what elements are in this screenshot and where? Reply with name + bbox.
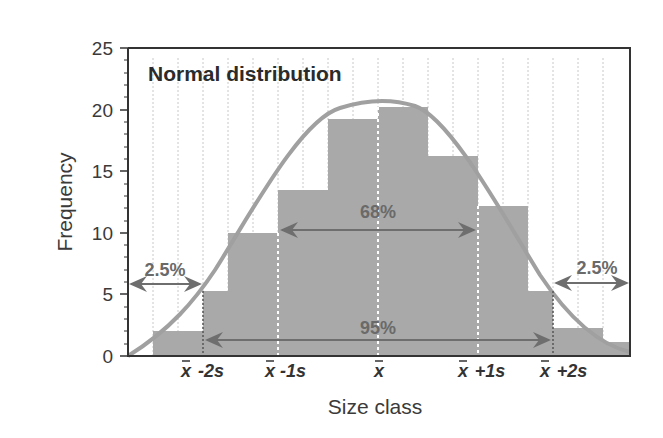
svg-text:+2s: +2s <box>557 361 588 381</box>
svg-text:20: 20 <box>92 100 113 121</box>
bar-9 <box>528 291 553 356</box>
svg-text:25: 25 <box>92 38 113 59</box>
chart-title: Normal distribution <box>148 62 342 85</box>
label-68: 68% <box>360 202 396 222</box>
sd-label-plus1: x +1s <box>457 361 505 381</box>
svg-text:0: 0 <box>102 346 113 367</box>
chart: 68% 95% 2.5% 2.5% 0 5 10 15 20 25 Freque… <box>0 0 663 438</box>
svg-text:10: 10 <box>92 223 113 244</box>
sd-label-minus2: x -2s <box>180 361 224 381</box>
svg-text:x: x <box>539 361 551 381</box>
svg-text:+1s: +1s <box>475 361 506 381</box>
y-tick-labels: 0 5 10 15 20 25 <box>92 38 113 367</box>
svg-text:x: x <box>264 361 276 381</box>
svg-text:x: x <box>373 361 385 381</box>
bar-8 <box>478 206 528 356</box>
x-axis-title: Size class <box>328 395 423 418</box>
bar-2 <box>203 291 228 356</box>
svg-text:15: 15 <box>92 161 113 182</box>
sd-label-plus2: x +2s <box>539 361 587 381</box>
svg-text:x: x <box>180 361 192 381</box>
label-95: 95% <box>360 318 396 338</box>
bar-7 <box>428 156 478 356</box>
sd-label-minus1: x -1s <box>264 361 306 381</box>
sd-x-labels: x -2s x -1s x x +1s x +2s <box>180 361 587 381</box>
svg-text:-1s: -1s <box>280 361 306 381</box>
label-right-tail: 2.5% <box>576 258 617 278</box>
bar-10 <box>553 328 603 356</box>
svg-text:x: x <box>457 361 469 381</box>
y-ticks <box>120 48 128 356</box>
sd-label-mean: x <box>373 361 385 381</box>
y-axis-title: Frequency <box>53 152 76 252</box>
bar-4 <box>278 190 328 356</box>
bar-3 <box>228 233 278 356</box>
label-left-tail: 2.5% <box>144 260 185 280</box>
svg-text:-2s: -2s <box>198 361 224 381</box>
svg-text:5: 5 <box>102 284 113 305</box>
